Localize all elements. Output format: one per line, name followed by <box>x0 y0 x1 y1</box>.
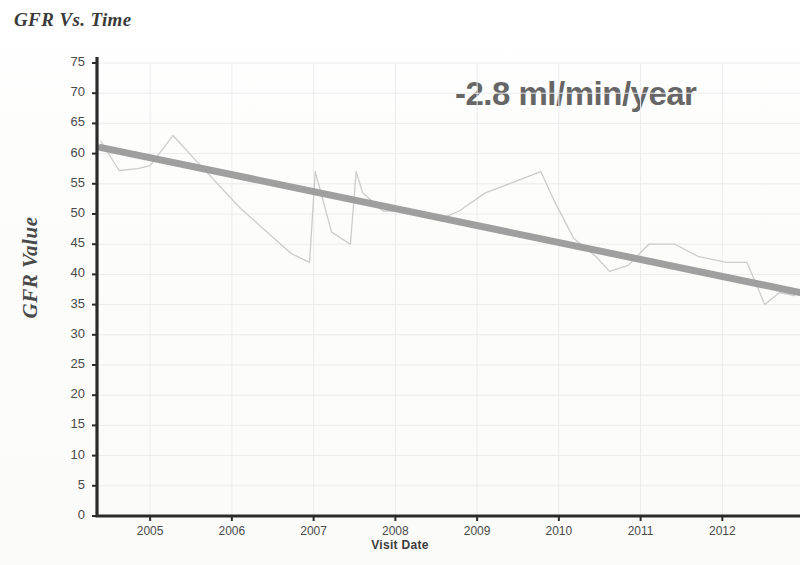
y-tick-label: 0 <box>49 507 85 522</box>
x-tick-label: 2007 <box>284 524 344 538</box>
y-tick-label: 20 <box>49 386 85 401</box>
x-tick-label: 2009 <box>447 524 507 538</box>
x-tick-label: 2010 <box>529 524 589 538</box>
y-tick-label: 40 <box>49 265 85 280</box>
y-tick-label: 10 <box>49 447 85 462</box>
x-tick-label: 2012 <box>692 524 752 538</box>
plot-canvas <box>0 0 800 565</box>
y-tick-label: 5 <box>49 477 85 492</box>
y-tick-label: 75 <box>49 54 85 69</box>
x-tick-label: 2006 <box>202 524 262 538</box>
y-tick-label: 45 <box>49 235 85 250</box>
x-tick-label: 2005 <box>120 524 180 538</box>
x-tick-label: 2011 <box>611 524 671 538</box>
trendline-series <box>101 148 800 293</box>
y-tick-label: 60 <box>49 145 85 160</box>
chart-figure: GFR Value Visit Date -2.8 ml/min/year 05… <box>0 0 800 565</box>
y-tick-label: 50 <box>49 205 85 220</box>
y-tick-label: 30 <box>49 326 85 341</box>
y-tick-label: 35 <box>49 296 85 311</box>
y-tick-label: 25 <box>49 356 85 371</box>
y-tick-label: 70 <box>49 84 85 99</box>
y-tick-label: 15 <box>49 416 85 431</box>
axis-lines <box>97 57 800 516</box>
x-tick-label: 2008 <box>365 524 425 538</box>
y-tick-label: 55 <box>49 175 85 190</box>
y-tick-label: 65 <box>49 114 85 129</box>
